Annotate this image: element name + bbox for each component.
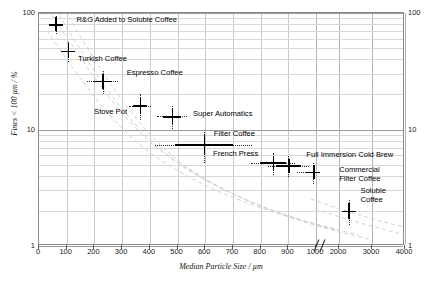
- x-tick-mark: [93, 245, 94, 249]
- y-tick-label: 1: [408, 241, 412, 250]
- y-tick-label: 100: [22, 8, 35, 17]
- data-point-label: Super Automatics: [193, 109, 253, 118]
- x-tick-mark: [371, 245, 372, 249]
- x-tick-mark: [287, 245, 288, 249]
- chart-figure: R&G Added to Soluble CoffeeTurkish Coffe…: [0, 0, 431, 283]
- data-point-label: Espresso Coffee: [127, 68, 183, 77]
- x-tick-mark: [149, 245, 150, 249]
- x-tick-mark: [177, 245, 178, 249]
- x-tick-mark: [66, 245, 67, 249]
- x-tick-mark: [404, 245, 405, 249]
- axis-break-marker: [313, 239, 331, 253]
- label-line: Filter Coffee: [339, 174, 380, 183]
- marker-vertical: [204, 135, 206, 155]
- x-tick-mark: [260, 245, 261, 249]
- marker-vertical: [288, 159, 290, 173]
- marker-vertical: [172, 109, 174, 124]
- y-tick-label: 10: [408, 124, 416, 133]
- marker-vertical: [68, 44, 70, 58]
- marker-vertical: [140, 97, 142, 114]
- marker-vertical: [313, 165, 315, 179]
- data-point-label: SolubleCoffee: [361, 186, 386, 204]
- x-tick-mark: [338, 245, 339, 249]
- x-tick-mark: [204, 245, 205, 249]
- x-axis-title: Median Particle Size / µm: [38, 262, 404, 271]
- data-point-label: Full Immersion Cold Brew: [306, 150, 393, 159]
- data-point-label: R&G Added to Soluble Coffee: [77, 15, 177, 24]
- x-tick-mark: [232, 245, 233, 249]
- x-gridline: [405, 13, 406, 244]
- y-tick-label: 10: [27, 124, 35, 133]
- marker-vertical: [273, 156, 275, 170]
- x-tick-mark: [38, 245, 39, 249]
- data-point-label: Filter Coffee: [214, 129, 255, 138]
- x-tick-mark: [121, 245, 122, 249]
- marker-vertical: [55, 17, 57, 31]
- marker-vertical: [348, 203, 350, 220]
- y-tick-label: 1: [31, 241, 35, 250]
- data-point-label: French Press: [213, 149, 258, 158]
- marker-vertical: [102, 74, 104, 89]
- plot-area: R&G Added to Soluble CoffeeTurkish Coffe…: [38, 12, 404, 245]
- label-line: Soluble: [361, 186, 386, 195]
- y-tick-label: 100: [408, 8, 421, 17]
- data-point-label: Turkish Coffee: [78, 54, 127, 63]
- data-point-label: Stove Pot: [94, 107, 127, 116]
- y-axis-title: Fines < 100 µm / %: [10, 54, 19, 154]
- label-line: Commercial: [339, 165, 380, 174]
- data-point-label: CommercialFilter Coffee: [339, 165, 380, 183]
- label-line: Coffee: [361, 195, 386, 204]
